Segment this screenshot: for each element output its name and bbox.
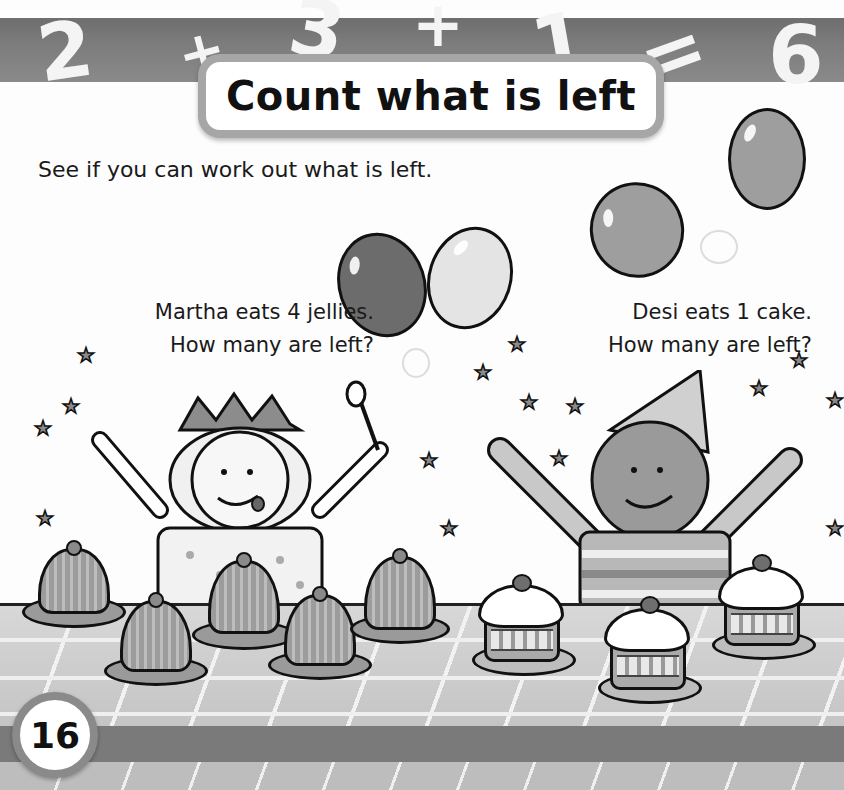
equation-result: 6 (768, 16, 824, 96)
star-icon: ★ (508, 334, 526, 354)
equation-plus: + (412, 0, 464, 56)
star-icon: ★ (77, 345, 95, 365)
desi-prompt: Desi eats 1 cake. How many are left? (530, 296, 812, 362)
star-icon: ★ (36, 508, 54, 528)
balloon-string (700, 230, 738, 264)
balloon-icon (574, 167, 700, 294)
footer-band (0, 726, 844, 762)
star-icon: ★ (34, 418, 52, 438)
balloon-icon (728, 108, 806, 210)
star-icon: ★ (826, 518, 844, 538)
cherry-icon (512, 574, 532, 592)
balloon-string (402, 348, 430, 378)
equation-digit: 2 (33, 9, 98, 94)
desi-line-2: How many are left? (530, 329, 812, 362)
star-icon: ★ (440, 518, 458, 538)
jelly-topping (66, 540, 82, 556)
jelly-topping (236, 552, 252, 568)
cupcake-wrapper-pattern (731, 613, 793, 635)
cherry-icon (752, 554, 772, 572)
cherry-icon (640, 596, 660, 614)
desi-line-1: Desi eats 1 cake. (530, 296, 812, 329)
star-icon: ★ (826, 390, 844, 410)
martha-line-2: How many are left? (92, 329, 374, 362)
jelly-topping (148, 592, 164, 608)
martha-line-1: Martha eats 4 jellies. (92, 296, 374, 329)
page-number-badge: 16 (12, 692, 98, 778)
jelly-icon (364, 556, 436, 630)
table-line (0, 712, 844, 716)
footer-floor (0, 762, 844, 790)
cupcake-wrapper-pattern (617, 655, 679, 677)
jelly-topping (392, 548, 408, 564)
balloon-icon (414, 216, 526, 341)
martha-prompt: Martha eats 4 jellies. How many are left… (92, 296, 374, 362)
star-icon: ★ (420, 450, 438, 470)
intro-text: See if you can work out what is left. (38, 157, 432, 182)
jelly-topping (312, 586, 328, 602)
star-icon: ★ (790, 350, 808, 370)
title-banner: Count what is left (198, 54, 664, 138)
page-number: 16 (30, 715, 80, 756)
cupcake-wrapper-pattern (491, 629, 553, 651)
book-page: 2 + 3 + 1 = 6 Count what is left See if … (0, 0, 844, 790)
page-title: Count what is left (226, 73, 636, 119)
